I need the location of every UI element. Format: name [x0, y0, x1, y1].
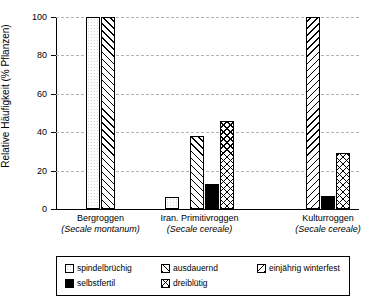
bar	[165, 197, 179, 209]
y-axis-tick	[51, 209, 56, 210]
y-axis-tick-label: 80	[37, 51, 47, 60]
legend-swatch	[161, 279, 170, 288]
x-axis-group-species: (Secale cereale)	[258, 224, 369, 235]
x-axis-group-name: Kulturroggen	[258, 213, 369, 224]
bar	[190, 136, 204, 209]
x-axis-group-label: Kulturroggen(Secale cereale)	[258, 213, 369, 235]
bar	[306, 17, 320, 209]
legend-item: selbstfertil	[65, 278, 115, 288]
x-axis-group-label: Iran. Primitivroggen(Secale cereale)	[130, 213, 270, 235]
x-axis-group-name: Iran. Primitivroggen	[130, 213, 270, 224]
legend-label: selbstfertil	[77, 278, 115, 288]
legend-swatch	[65, 264, 74, 273]
legend-item: dreiblütig	[161, 278, 208, 288]
legend-item: ausdauernd	[161, 263, 218, 273]
bar	[336, 153, 350, 209]
legend: spindelbrüchigausdauerndeinjährig winter…	[56, 256, 350, 296]
bar	[321, 196, 335, 209]
y-axis-tick	[51, 55, 56, 56]
y-axis-tick-label: 100	[32, 13, 47, 22]
legend-label: spindelbrüchig	[77, 263, 132, 273]
y-axis-tick	[51, 17, 56, 18]
y-axis-tick	[51, 171, 56, 172]
bar	[205, 184, 219, 209]
plot-area: 020406080100	[56, 17, 359, 209]
legend-item: spindelbrüchig	[65, 263, 132, 273]
bar	[220, 121, 234, 209]
legend-label: dreiblütig	[173, 278, 208, 288]
bar-chart: Relative Häufigkeit (% Pflanzen) 0204060…	[0, 0, 369, 303]
legend-label: ausdauernd	[173, 263, 218, 273]
y-axis-line	[56, 17, 57, 209]
x-axis-line	[56, 209, 359, 210]
legend-swatch	[65, 279, 74, 288]
y-axis-tick-label: 60	[37, 90, 47, 99]
y-axis-tick	[51, 132, 56, 133]
y-axis-tick	[51, 94, 56, 95]
legend-swatch	[161, 264, 170, 273]
legend-item: einjährig winterfest	[257, 263, 340, 273]
y-axis-tick-label: 40	[37, 128, 47, 137]
y-axis-title-text: Relative Häufigkeit (% Pflanzen)	[0, 24, 11, 167]
bar	[86, 17, 100, 209]
bar	[101, 17, 115, 209]
x-axis-group-species: (Secale cereale)	[130, 224, 270, 235]
y-axis-title: Relative Häufigkeit (% Pflanzen)	[0, 0, 12, 192]
y-axis-tick-label: 20	[37, 167, 47, 176]
legend-swatch	[257, 264, 266, 273]
legend-label: einjährig winterfest	[269, 263, 340, 273]
